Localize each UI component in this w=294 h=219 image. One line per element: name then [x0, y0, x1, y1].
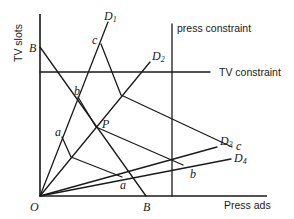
ray-d1-label: D1 — [103, 9, 117, 24]
y-axis-label: TV slots — [12, 24, 24, 62]
curve-c-top-label: c — [92, 33, 98, 47]
ray-d4-label: D4 — [233, 151, 247, 166]
curve-b-top-label: b — [74, 84, 80, 98]
curve-a-bottom-label: a — [120, 178, 126, 192]
press-constraint-label: press constraint — [177, 22, 251, 34]
curve-c — [101, 44, 232, 147]
origin-label: O — [30, 200, 39, 214]
curve-b-bottom-label: b — [190, 167, 196, 181]
curve-a — [62, 137, 122, 177]
x-axis-label: Press ads — [224, 199, 271, 211]
budget-y-intercept-label: B — [29, 41, 37, 55]
point-p-label: P — [101, 117, 110, 131]
curve-a-top-label: a — [55, 125, 61, 139]
tv-constraint-label: TV constraint — [219, 66, 281, 78]
ray-d1 — [40, 22, 108, 196]
media-constraint-diagram: TV slots Press ads O press constraint TV… — [0, 0, 294, 219]
ray-d4 — [40, 159, 231, 196]
ray-d2-label: D2 — [151, 49, 165, 64]
curve-c-bottom-label: c — [236, 139, 242, 153]
budget-x-intercept-label: B — [143, 200, 151, 214]
